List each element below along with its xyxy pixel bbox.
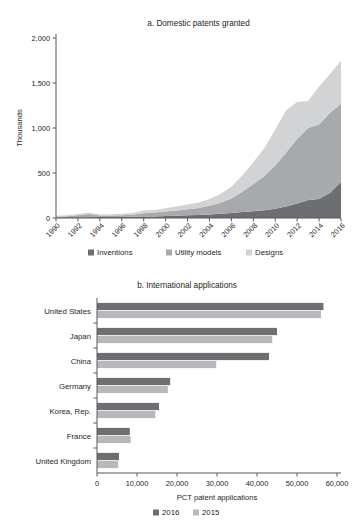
chart-a-x-tick-label: 2012 [285, 221, 303, 239]
chart-panel-domestic-patents: a. Domestic patents granted05001,0001,50… [0, 0, 355, 270]
chart-a-x-tick-label: 2014 [307, 221, 325, 239]
chart-b-x-tick-label: 10,000 [126, 479, 149, 488]
bar-united-kingdom-2015 [97, 461, 118, 468]
chart-a-y-tick-label: 2,000 [32, 34, 51, 43]
legend-label-2016: 2016 [162, 508, 179, 517]
chart-a-legend: InventionsUtility modelsDesigns [88, 248, 283, 257]
bar-france-2015 [97, 436, 131, 443]
bar-france-2016 [97, 428, 130, 435]
chart-a-x-tick-label: 2008 [241, 221, 259, 239]
chart-b-x-tick-label: 0 [95, 479, 99, 488]
bar-united-kingdom-2016 [97, 453, 119, 460]
chart-b-category-label: United States [44, 307, 91, 316]
bar-chart-international-applications: b. International applicationsUnited Stat… [0, 270, 355, 528]
chart-b-x-tick-label: 20,000 [166, 479, 189, 488]
bar-germany-2016 [97, 378, 170, 385]
chart-a-x-tick-label: 1998 [132, 221, 150, 239]
chart-a-y-tick-label: 1,000 [32, 124, 51, 133]
chart-a-y-tick-label: 0 [46, 214, 50, 223]
chart-a-x-tick-label: 2000 [154, 221, 172, 239]
bar-united-states-2016 [97, 303, 323, 310]
chart-b-x-axis-label: PCT patent applications [177, 493, 258, 502]
chart-panel-international-applications: b. International applicationsUnited Stat… [0, 270, 355, 528]
bar-china-2015 [97, 361, 216, 368]
area-chart-domestic-patents: a. Domestic patents granted05001,0001,50… [0, 0, 355, 270]
chart-a-title: a. Domestic patents granted [147, 19, 250, 28]
chart-a-x-tick-label: 1996 [110, 221, 128, 239]
chart-a-areas [56, 61, 341, 219]
chart-a-x-tick-label: 1990 [44, 221, 62, 239]
bar-japan-2016 [97, 328, 277, 335]
legend-swatch-2015 [193, 510, 199, 516]
legend-swatch-inventions [88, 250, 94, 256]
chart-a-x-tick-label: 2006 [219, 221, 237, 239]
chart-b-x-tick-label: 60,000 [326, 479, 349, 488]
chart-b-category-label: United Kingdom [36, 457, 91, 466]
legend-swatch-utility-models [166, 250, 172, 256]
legend-swatch-2016 [153, 510, 159, 516]
chart-a-y-tick-label: 500 [38, 169, 50, 178]
chart-b-legend: 20162015 [153, 508, 220, 517]
chart-b-bars [97, 303, 323, 468]
bar-korea-rep--2015 [97, 411, 155, 418]
figure-page: a. Domestic patents granted05001,0001,50… [0, 0, 355, 528]
chart-a-x-tick-label: 2002 [175, 221, 193, 239]
bar-united-states-2015 [97, 311, 321, 318]
bar-japan-2015 [97, 336, 272, 343]
legend-label-2015: 2015 [202, 508, 220, 517]
chart-a-x-tick-label: 1994 [88, 221, 106, 239]
legend-swatch-designs [246, 250, 252, 256]
chart-b-x-tick-label: 30,000 [206, 479, 229, 488]
bar-china-2016 [97, 353, 269, 360]
bar-korea-rep--2016 [97, 403, 159, 410]
chart-a-y-tick-label: 1,500 [32, 79, 51, 88]
chart-a-x-tick-label: 2010 [263, 221, 281, 239]
legend-label-utility-models: Utility models [175, 248, 221, 257]
chart-b-category-label: France [67, 432, 91, 441]
chart-b-x-tick-label: 50,000 [286, 479, 309, 488]
chart-b-x-tick-label: 40,000 [246, 479, 269, 488]
bar-germany-2015 [97, 386, 168, 393]
chart-b-title: b. International applications [137, 281, 237, 290]
legend-label-inventions: Inventions [97, 248, 133, 257]
chart-a-x-tick-label: 1992 [66, 221, 84, 239]
chart-a-x-tick-label: 2016 [329, 221, 347, 239]
chart-b-category-label: Japan [70, 332, 91, 341]
legend-label-designs: Designs [255, 248, 283, 257]
chart-a-x-tick-label: 2004 [197, 221, 215, 239]
chart-a-y-axis-label: Thousands [15, 109, 24, 147]
chart-b-category-label: Germany [59, 382, 91, 391]
chart-b-category-label: Korea, Rep. [49, 407, 91, 416]
chart-b-category-label: China [71, 357, 92, 366]
